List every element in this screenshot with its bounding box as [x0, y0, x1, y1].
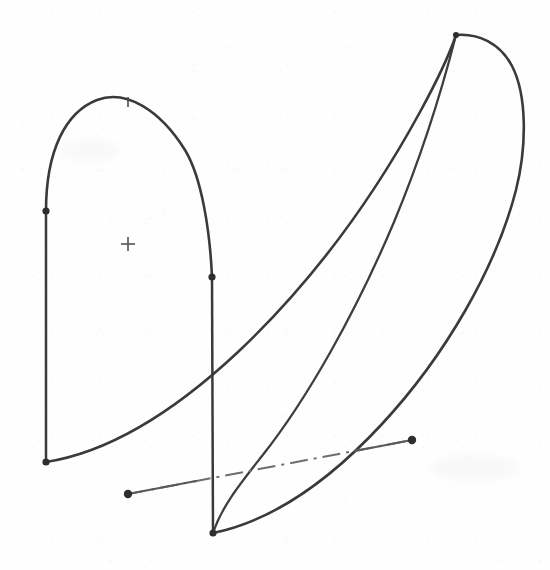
node-left-upper: [42, 207, 49, 214]
leader-left: [128, 481, 196, 494]
right-profile-mid-curve: [213, 35, 456, 533]
node-left-lower: [42, 458, 49, 465]
datum-center-crosshair-icon: [121, 237, 135, 251]
technical-drawing-canvas: [0, 0, 550, 570]
mid-stacking-line: [212, 277, 213, 533]
node-centerline-right: [408, 436, 416, 444]
drawing-vector-layer: [0, 0, 550, 570]
node-mid-lower: [209, 529, 216, 536]
node-centerline-left: [124, 490, 132, 498]
node-mid-upper: [208, 273, 215, 280]
inner-base-curve: [46, 35, 456, 462]
left-profile-arch: [46, 97, 212, 277]
node-apex-right: [453, 32, 459, 38]
